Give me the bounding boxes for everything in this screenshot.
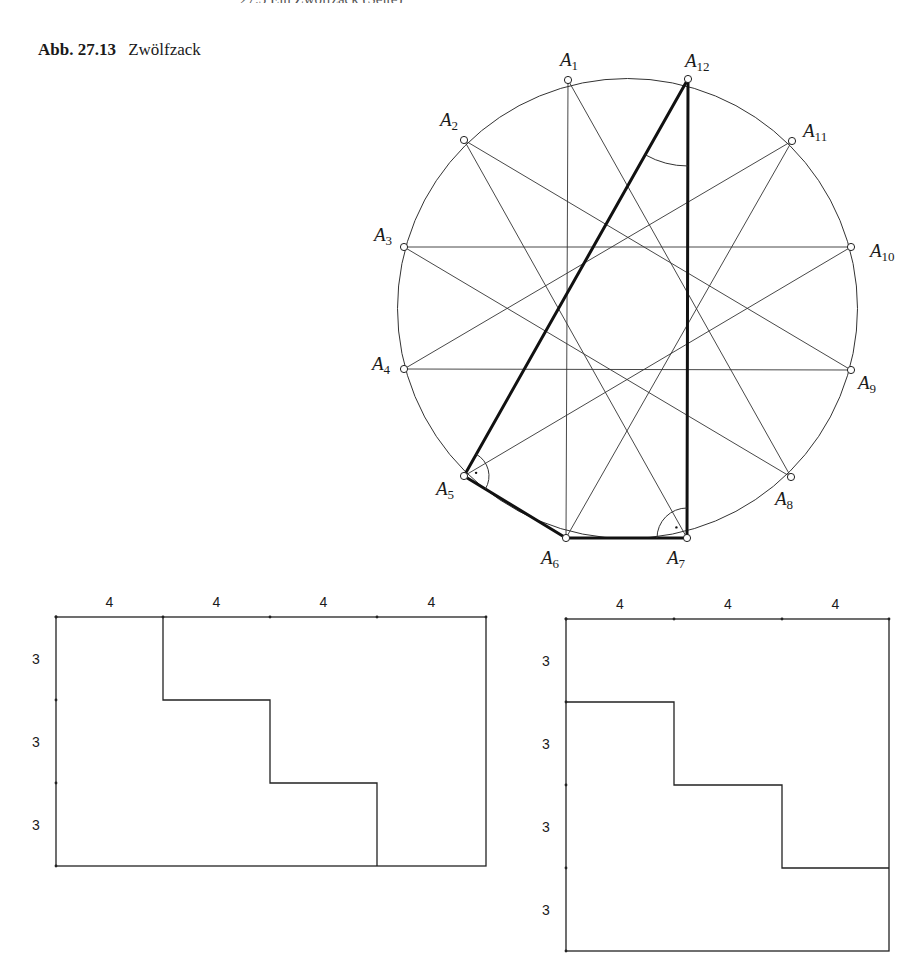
left-grid-row-label: 3 — [32, 651, 40, 667]
left-grid-row-label: 3 — [32, 734, 40, 750]
star-chord — [404, 247, 791, 477]
right-grid-row-label: 3 — [542, 736, 550, 752]
vertex-point-a10 — [847, 243, 854, 250]
left-grid-tick — [376, 616, 379, 619]
vertex-point-a3 — [400, 243, 407, 250]
left-grid-row-label: 3 — [32, 817, 40, 833]
left-grid-tick — [55, 865, 58, 868]
vertex-label-a4: A4 — [370, 353, 391, 377]
right-grid-col-label: 4 — [616, 596, 624, 612]
right-grid-tick — [781, 618, 784, 621]
vertex-label-a7: A7 — [665, 547, 686, 571]
right-grid-diagram: 4443333 — [542, 596, 890, 952]
vertex-point-a8 — [787, 473, 794, 480]
vertex-point-a5 — [460, 472, 467, 479]
vertex-label-a11: A11 — [801, 120, 827, 144]
star-chord — [568, 80, 791, 477]
star-chord — [404, 141, 792, 369]
thick-edge — [464, 79, 688, 476]
right-grid-tick — [565, 950, 568, 953]
vertex-point-a7 — [683, 534, 690, 541]
left-grid-tick — [55, 782, 58, 785]
vertex-label-a9: A9 — [856, 372, 876, 396]
vertex-point-a4 — [400, 365, 407, 372]
left-grid-col-label: 4 — [213, 594, 221, 610]
vertex-point-a12 — [684, 75, 691, 82]
star-chord — [566, 80, 568, 538]
figure-canvas: A1A2A3A4A5A6A7A8A9A10A11A12 4444333 4443… — [0, 0, 924, 968]
left-grid-col-label: 4 — [320, 594, 328, 610]
vertex-label-a2: A2 — [438, 109, 458, 133]
twelve-point-star-diagram: A1A2A3A4A5A6A7A8A9A10A11A12 — [370, 49, 895, 571]
left-grid-diagram: 4444333 — [32, 594, 487, 867]
vertex-point-a11 — [788, 137, 795, 144]
right-grid-tick — [673, 618, 676, 621]
left-grid-col-label: 4 — [428, 594, 436, 610]
star-chord — [464, 140, 851, 370]
right-angle-mark-a7 — [657, 508, 687, 538]
right-grid-col-label: 4 — [724, 596, 732, 612]
vertex-label-a10: A10 — [868, 240, 895, 264]
left-grid-tick — [55, 699, 58, 702]
vertex-label-a8: A8 — [773, 488, 793, 512]
left-grid-tick — [55, 616, 58, 619]
right-grid-row-label: 3 — [542, 819, 550, 835]
vertex-point-a1 — [564, 76, 571, 83]
vertex-label-a6: A6 — [539, 547, 560, 571]
star-chord — [464, 140, 687, 538]
vertex-label-a12: A12 — [683, 50, 710, 74]
left-grid-staircase — [163, 617, 377, 866]
right-angle-mark-a7-dot — [675, 526, 677, 528]
right-grid-col-label: 4 — [832, 596, 840, 612]
right-angle-mark-a5-dot — [475, 472, 477, 474]
vertex-label-a5: A5 — [434, 478, 454, 502]
vertex-label-a3: A3 — [372, 224, 392, 248]
star-chord — [464, 247, 851, 476]
left-grid-tick — [269, 616, 272, 619]
right-grid-staircase — [566, 702, 889, 868]
thick-edge — [464, 476, 566, 538]
vertex-point-a2 — [460, 136, 467, 143]
vertex-point-a6 — [562, 534, 569, 541]
right-grid-tick — [565, 867, 568, 870]
star-chord — [566, 141, 792, 538]
vertex-label-a1: A1 — [558, 49, 578, 73]
right-grid-row-label: 3 — [542, 902, 550, 918]
angle-arc-a12 — [645, 155, 688, 166]
right-grid-tick — [565, 618, 568, 621]
vertex-point-a9 — [847, 366, 854, 373]
left-grid-outline — [56, 617, 486, 866]
right-grid-tick — [565, 784, 568, 787]
thick-edge — [687, 79, 688, 538]
left-grid-col-label: 4 — [106, 594, 114, 610]
right-grid-row-label: 3 — [542, 653, 550, 669]
star-chord — [404, 369, 851, 370]
right-grid-tick — [888, 618, 891, 621]
left-grid-tick — [485, 616, 488, 619]
